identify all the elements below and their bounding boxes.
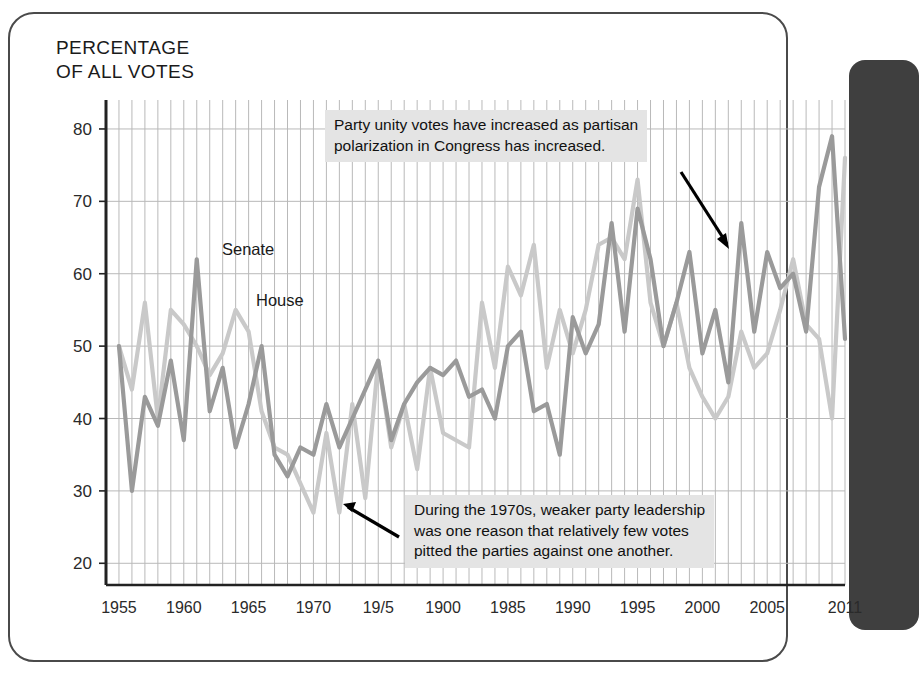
y-tick-label: 20 <box>73 554 92 573</box>
y-tick-label: 40 <box>73 410 92 429</box>
x-tick-label: 1960 <box>166 599 202 616</box>
x-tick-label: 1990 <box>555 599 591 616</box>
arrow-top-line <box>681 172 727 244</box>
y-tick-label: 50 <box>73 337 92 356</box>
y-tick-label: 70 <box>73 192 92 211</box>
annotation-bottom: During the 1970s, weaker party leadershi… <box>405 495 714 568</box>
x-tick-label: 2011 <box>828 599 863 616</box>
y-tick-label: 30 <box>73 482 92 501</box>
x-tick-label: 1900 <box>425 599 461 616</box>
x-tick-label: 19/5 <box>363 599 394 616</box>
house-series-label: House <box>256 291 304 310</box>
x-tick-label: 1970 <box>296 599 332 616</box>
x-tick-label: 2005 <box>749 599 785 616</box>
senate-series-label: Senate <box>222 240 274 259</box>
annotation-arrows <box>343 172 729 537</box>
x-tick-label: 2000 <box>685 599 721 616</box>
x-axis-tick-labels: 195519601965197019/519001985199019952000… <box>101 599 862 616</box>
arrow-top-head <box>717 233 729 249</box>
y-tick-label: 80 <box>73 120 92 139</box>
annotation-top: Party unity votes have increased as part… <box>325 110 647 162</box>
y-tick-label: 60 <box>73 265 92 284</box>
x-tick-label: 1965 <box>231 599 267 616</box>
x-tick-label: 1955 <box>101 599 137 616</box>
x-tick-label: 1985 <box>490 599 526 616</box>
y-axis-tick-labels: 20304050607080 <box>73 120 106 573</box>
x-tick-label: 1995 <box>620 599 656 616</box>
